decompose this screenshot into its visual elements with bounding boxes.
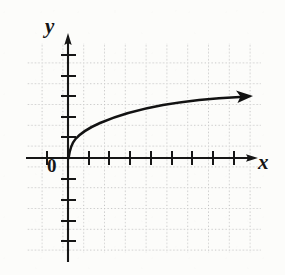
origin-label: 0 <box>47 156 57 175</box>
coordinate-plane-svg <box>0 0 285 275</box>
y-axis-label: y <box>45 16 54 37</box>
graph-figure: y x 0 <box>0 0 285 275</box>
x-axis-label: x <box>258 152 269 173</box>
